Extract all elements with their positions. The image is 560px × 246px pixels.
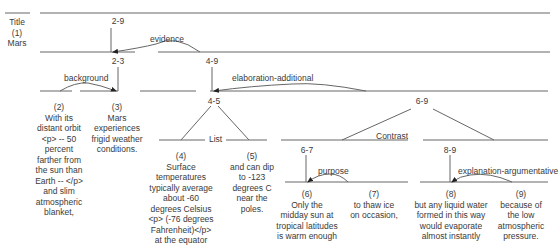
relation-list: List [209, 134, 222, 144]
span-6-9: 6-9 [416, 96, 428, 106]
segment-8: (8) but any liquid water formed in this … [414, 189, 487, 242]
title-text: Mars [2, 38, 32, 49]
segment-5: (5) and can dip to -123 degrees C near t… [230, 151, 274, 214]
segment-7: (7) to thaw ice on occasion, [350, 189, 398, 221]
span-2-3: 2-3 [112, 56, 124, 66]
span-8-9: 8-9 [444, 145, 456, 155]
relation-contrast: Contrast [376, 131, 408, 141]
segment-9: (9) because of the low atmospheric press… [498, 189, 544, 242]
segment-3: (3) Mars experiences frigid weather cond… [91, 102, 142, 155]
relation-elaboration: elaboration-additional [232, 73, 313, 83]
span-4-9: 4-9 [206, 56, 218, 66]
segment-4: (4) Surface temperatures typically avera… [148, 151, 213, 246]
relation-explanation: explanation-argumentative [458, 166, 558, 176]
span-4-5: 4-5 [208, 96, 220, 106]
title-node: Title (1) Mars [2, 17, 32, 49]
span-2-9: 2-9 [112, 16, 124, 26]
relation-purpose: purpose [318, 166, 349, 176]
segment-6: (6) Only the midday sun at tropical lati… [276, 189, 337, 242]
span-6-7: 6-7 [301, 145, 313, 155]
relation-background: background [64, 73, 108, 83]
title-label: Title [2, 17, 32, 28]
title-num: (1) [2, 28, 32, 39]
relation-evidence: evidence [150, 34, 184, 44]
segment-2: (2) With its distant orbit <p> -- 50 per… [35, 102, 83, 218]
